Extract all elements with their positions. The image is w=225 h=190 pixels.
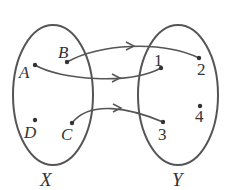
point-a [33,63,37,67]
point-d [33,118,37,122]
label-1: 1 [154,51,163,70]
label-a: A [18,63,30,82]
mapping-diagram: A B D C 1 2 3 4 X Y [0,0,225,190]
set-x-ellipse [13,25,93,165]
label-2: 2 [197,60,206,79]
label-b: B [58,43,69,62]
label-4: 4 [195,107,204,126]
arrow-a-to-1 [35,65,161,82]
label-3: 3 [158,125,167,144]
set-y-label: Y [172,169,185,190]
label-d: D [23,123,37,142]
set-x-label: X [39,169,53,190]
arrow-c-to-3 [72,104,163,123]
label-c: C [61,125,73,144]
point-3 [161,120,165,124]
